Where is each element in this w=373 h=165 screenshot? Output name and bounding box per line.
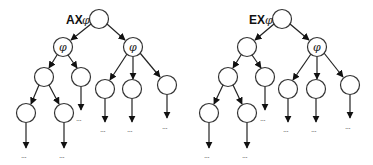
continuation-ellipsis: ... [345, 122, 350, 131]
phi-node-label: φ [313, 41, 321, 54]
tree-node [238, 38, 257, 57]
ax-tree: AX φ φ φ ... ... ... ... ... ... [17, 10, 177, 161]
edge [110, 54, 127, 80]
continuation-ellipsis: ... [283, 125, 288, 134]
continuation-ellipsis: ... [127, 125, 132, 134]
tree-node [35, 68, 54, 87]
tree-node [238, 104, 257, 123]
continuation-ellipsis: ... [260, 114, 265, 123]
tree-node [72, 68, 91, 87]
tree-node-root [90, 10, 109, 29]
edge [324, 53, 343, 77]
edge [107, 24, 125, 40]
phi-node-label: φ [129, 41, 137, 54]
ax-root-phi-label: φ [82, 14, 90, 27]
tree-node [17, 104, 36, 123]
edge [214, 85, 223, 104]
tree-node [341, 76, 360, 95]
ax-nodes [17, 10, 177, 123]
tree-node-root [273, 10, 292, 29]
tree-node [55, 104, 74, 123]
tree-node [219, 68, 238, 87]
continuation-ellipsis: ... [59, 151, 64, 160]
continuation-ellipsis: ... [311, 125, 316, 134]
continuation-ellipsis: ... [204, 151, 209, 160]
edge [68, 55, 77, 68]
ex-tree: EX φ φ ... ... ... ... ... ... [200, 10, 360, 161]
edge [140, 53, 160, 77]
edge [31, 85, 39, 104]
continuation-ellipsis: ... [162, 122, 167, 131]
edge [49, 85, 59, 104]
ex-operator-label: EX [249, 13, 265, 27]
edge [49, 55, 57, 68]
edge [233, 85, 242, 104]
ex-nodes [200, 10, 360, 123]
ex-root-phi-label: φ [265, 14, 273, 27]
tree-node [307, 80, 326, 99]
tree-node [123, 80, 142, 99]
continuation-ellipsis: ... [76, 114, 81, 123]
tree-node [96, 80, 115, 99]
edge [233, 55, 241, 68]
tree-node [200, 104, 219, 123]
edge [290, 24, 309, 40]
continuation-ellipsis: ... [242, 151, 247, 160]
tree-node [279, 80, 298, 99]
tree-node [256, 68, 275, 87]
tree-node [158, 76, 177, 95]
continuation-ellipsis: ... [21, 151, 26, 160]
phi-node-label: φ [59, 41, 67, 54]
edge [252, 55, 261, 68]
computation-tree-diagram: AX φ φ φ ... ... ... ... ... ... [0, 0, 373, 165]
edge [293, 54, 311, 80]
ax-operator-label: AX [66, 13, 83, 27]
continuation-ellipsis: ... [100, 125, 105, 134]
